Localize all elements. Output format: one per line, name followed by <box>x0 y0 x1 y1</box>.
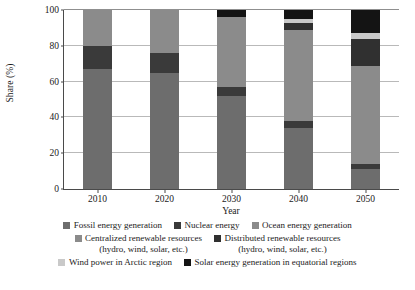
bar-segment[interactable] <box>217 96 246 189</box>
bars-container: 20102020203020402050 <box>64 10 399 189</box>
legend-item[interactable]: Centralized renewable resources(hydro, w… <box>75 233 202 255</box>
stacked-bar-2050[interactable] <box>351 10 380 189</box>
legend-label-sub: (hydro, wind, solar, etc.) <box>85 244 202 255</box>
legend-swatch-icon <box>252 222 259 229</box>
x-tick-mark <box>298 189 299 193</box>
y-tick-label: 0 <box>25 184 59 194</box>
bar-slot-2020: 2020 <box>131 10 198 189</box>
bar-segment[interactable] <box>351 39 380 66</box>
y-tick-label: 20 <box>25 148 59 158</box>
legend-item[interactable]: Fossil energy generation <box>63 220 162 231</box>
x-tick-mark <box>97 189 98 193</box>
bar-slot-2010: 2010 <box>64 10 131 189</box>
bar-slot-2030: 2030 <box>198 10 265 189</box>
bar-segment[interactable] <box>351 33 380 38</box>
y-tick-label: 100 <box>25 5 59 15</box>
bar-segment[interactable] <box>284 23 313 30</box>
legend-label: Wind power in Arctic region <box>69 257 172 268</box>
legend-label: Solar energy generation in equatorial re… <box>195 257 357 268</box>
legend-swatch-icon <box>214 235 221 242</box>
bar-segment[interactable] <box>284 30 313 121</box>
legend-label: Distributed renewable resources(hydro, w… <box>224 233 340 255</box>
x-tick-label: 2030 <box>222 194 241 204</box>
stacked-bar-2010[interactable] <box>83 10 112 189</box>
bar-segment[interactable] <box>83 46 112 69</box>
x-tick-mark <box>164 189 165 193</box>
y-axis-title: Share (%) <box>5 47 15 119</box>
legend-item[interactable]: Solar energy generation in equatorial re… <box>184 257 357 268</box>
bar-segment[interactable] <box>217 87 246 96</box>
stacked-bar-2030[interactable] <box>217 10 246 189</box>
legend-item[interactable]: Wind power in Arctic region <box>58 257 172 268</box>
bar-segment[interactable] <box>150 53 179 73</box>
legend-item[interactable]: Nuclear energy <box>174 220 240 231</box>
bar-segment[interactable] <box>284 10 313 19</box>
stacked-bar-2020[interactable] <box>150 10 179 189</box>
legend-swatch-icon <box>63 222 70 229</box>
legend-label: Fossil energy generation <box>74 220 162 231</box>
legend-item[interactable]: Distributed renewable resources(hydro, w… <box>214 233 340 255</box>
legend-label: Nuclear energy <box>184 220 239 231</box>
x-axis-title: Year <box>63 206 399 216</box>
bar-segment[interactable] <box>150 10 179 53</box>
bar-segment[interactable] <box>284 19 313 23</box>
y-tick-label: 60 <box>25 77 59 87</box>
legend-swatch-icon <box>75 235 82 242</box>
legend-row-2: Centralized renewable resources(hydro, w… <box>0 233 415 255</box>
chart-legend: Fossil energy generationNuclear energyOc… <box>0 220 415 270</box>
bar-segment[interactable] <box>351 10 380 33</box>
legend-row-3: Wind power in Arctic regionSolar energy … <box>0 257 415 268</box>
bar-segment[interactable] <box>351 66 380 164</box>
bar-segment[interactable] <box>217 10 246 17</box>
bar-slot-2050: 2050 <box>332 10 399 189</box>
x-tick-label: 2040 <box>289 194 308 204</box>
x-tick-label: 2020 <box>155 194 174 204</box>
bar-segment[interactable] <box>284 128 313 189</box>
y-tick-label: 80 <box>25 41 59 51</box>
bar-segment[interactable] <box>217 17 246 87</box>
legend-swatch-icon <box>58 259 65 266</box>
x-tick-mark <box>365 189 366 193</box>
x-tick-label: 2010 <box>88 194 107 204</box>
legend-item[interactable]: Ocean energy generation <box>252 220 352 231</box>
y-tick-label: 40 <box>25 112 59 122</box>
legend-row-1: Fossil energy generationNuclear energyOc… <box>0 220 415 231</box>
legend-label-sub: (hydro, wind, solar, etc.) <box>224 244 340 255</box>
bar-segment[interactable] <box>284 121 313 128</box>
bar-segment[interactable] <box>351 164 380 169</box>
x-tick-label: 2050 <box>356 194 375 204</box>
bar-segment[interactable] <box>150 73 179 189</box>
plot-area: 020406080100 20102020203020402050 <box>63 10 399 190</box>
legend-swatch-icon <box>174 222 181 229</box>
legend-label: Centralized renewable resources(hydro, w… <box>85 233 202 255</box>
legend-label: Ocean energy generation <box>262 220 352 231</box>
bar-segment[interactable] <box>351 169 380 189</box>
bar-segment[interactable] <box>83 10 112 46</box>
x-tick-mark <box>231 189 232 193</box>
legend-swatch-icon <box>184 259 191 266</box>
stacked-bar-2040[interactable] <box>284 10 313 189</box>
bar-slot-2040: 2040 <box>265 10 332 189</box>
stacked-bar-chart-figure: Share (%) 020406080100 20102020203020402… <box>0 0 415 290</box>
bar-segment[interactable] <box>83 69 112 189</box>
